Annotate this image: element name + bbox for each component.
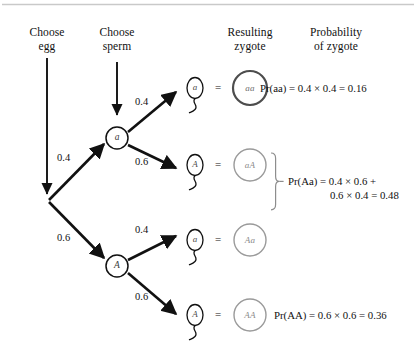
equals-sign-2: = xyxy=(215,158,221,170)
prob-label-sperm-3: 0.4 xyxy=(135,224,148,235)
header-line-2: egg xyxy=(10,40,84,54)
branch-sperm-A-a xyxy=(128,236,176,260)
equation-pr-Aa-line1: Pr(Aa) = 0.4 × 0.6 + xyxy=(288,174,376,188)
prob-label-sperm-2: 0.6 xyxy=(135,156,148,167)
diagram-canvas: Choose egg Choose sperm Resulting zygote… xyxy=(0,0,418,358)
equals-sign-3: = xyxy=(215,233,221,245)
egg-node-label-a: a xyxy=(105,132,129,142)
zygote-label-Aa: Aa xyxy=(233,235,267,245)
egg-node-label-A: A xyxy=(105,260,129,270)
sperm-label-4: A xyxy=(184,309,206,319)
header-line-1: Choose xyxy=(80,26,154,40)
grouping-brace xyxy=(271,153,284,210)
header-line-1: Choose xyxy=(10,26,84,40)
zygote-label-aA: aA xyxy=(233,160,267,170)
header-line-2: sperm xyxy=(80,40,154,54)
prob-label-egg-A: 0.6 xyxy=(57,232,70,243)
sperm-label-2: A xyxy=(184,159,206,169)
header-line-1: Probability xyxy=(290,26,382,40)
sperm-label-1: a xyxy=(184,82,206,92)
prob-label-sperm-4: 0.6 xyxy=(135,291,148,302)
header-line-1: Resulting xyxy=(212,26,288,40)
equation-pr-Aa-line2: 0.6 × 0.4 = 0.48 xyxy=(330,188,399,202)
header-line-2: of zygote xyxy=(290,40,382,54)
zygote-label-AA: AA xyxy=(233,310,267,320)
header-line-2: zygote xyxy=(212,40,288,54)
sperm-label-3: a xyxy=(184,234,206,244)
prob-label-sperm-1: 0.4 xyxy=(135,96,148,107)
equals-sign-1: = xyxy=(215,81,221,93)
prob-label-egg-a: 0.4 xyxy=(57,152,70,163)
branch-egg-A xyxy=(49,202,104,258)
header-choose-egg: Choose egg xyxy=(10,26,84,53)
header-probability-of-zygote: Probability of zygote xyxy=(290,26,382,53)
equation-pr-aa: Pr(aa) = 0.4 × 0.4 = 0.16 xyxy=(260,81,367,95)
header-resulting-zygote: Resulting zygote xyxy=(212,26,288,53)
equals-sign-4: = xyxy=(215,308,221,320)
equation-pr-AA: Pr(AA) = 0.6 × 0.6 = 0.36 xyxy=(274,308,387,322)
header-choose-sperm: Choose sperm xyxy=(80,26,154,53)
